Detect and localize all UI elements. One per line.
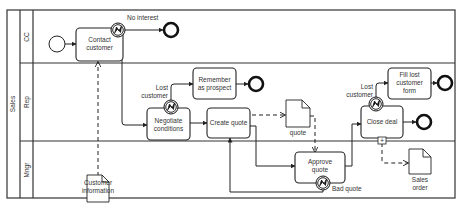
task-label: Negotiate <box>155 117 183 125</box>
label-lost-customer-1a: Lost <box>156 84 168 91</box>
end-event-close-deal[interactable] <box>417 115 431 129</box>
task-label: customer <box>396 79 424 86</box>
lane-label-rep: Rep <box>23 96 31 108</box>
label-customer-information-1: Customer <box>84 179 113 186</box>
task-label: quote <box>312 166 329 174</box>
flow-create-to-approve <box>250 126 295 166</box>
label-no-interest: No interest <box>127 14 159 21</box>
task-label: Fill lost <box>399 71 419 78</box>
task-label: Approve <box>308 158 333 166</box>
boundary-error-event-contact[interactable] <box>111 23 125 37</box>
flow-lost-customer-2 <box>376 83 388 97</box>
plus-icon: + <box>380 137 384 144</box>
start-event[interactable] <box>49 36 65 52</box>
pool-label: Sales <box>9 95 16 112</box>
data-object-sales-order[interactable] <box>409 149 431 174</box>
task-label: as prospect <box>198 84 232 92</box>
task-create-quote[interactable]: Create quote <box>207 108 250 138</box>
label-lost-customer-1b: customer <box>141 92 169 99</box>
lane-label-cc: CC <box>23 32 30 42</box>
data-object-quote[interactable] <box>286 100 310 127</box>
task-label: Contact <box>88 36 111 43</box>
task-remember-as-prospect[interactable]: Remember as prospect <box>193 68 236 99</box>
task-label: Remember <box>198 76 231 83</box>
task-label: form <box>403 87 416 94</box>
task-label: conditions <box>154 125 184 132</box>
label-quote: quote <box>290 129 307 137</box>
flow-lost-customer-1 <box>171 84 193 101</box>
end-event-no-interest[interactable] <box>164 23 178 37</box>
label-sales-order-2: order <box>412 184 428 191</box>
task-label: Create quote <box>210 119 248 127</box>
label-lost-customer-2b: customer <box>346 91 374 98</box>
label-bad-quote: Bad quote <box>332 185 362 193</box>
boundary-error-event-close[interactable] <box>369 97 383 111</box>
end-event-lost-form[interactable] <box>438 76 452 90</box>
task-label: Close deal <box>367 118 398 125</box>
boundary-error-event-negotiate[interactable] <box>164 100 178 114</box>
assoc-close-to-order <box>382 143 408 163</box>
flow-approve-to-close <box>345 124 361 166</box>
task-fill-lost-customer-form[interactable]: Fill lost customer form <box>388 68 431 99</box>
label-customer-information-2: information <box>82 187 115 194</box>
end-event-prospect[interactable] <box>249 77 263 91</box>
task-label: customer <box>86 44 114 51</box>
bpmn-diagram: Sales CC Rep Mngr Contact customer <box>0 0 461 204</box>
boundary-error-event-approve[interactable] <box>316 176 330 190</box>
assoc-quote-to-approve <box>310 116 315 152</box>
label-sales-order-1: Sales <box>412 176 429 183</box>
pool-sales: Sales CC Rep Mngr <box>7 10 455 198</box>
lane-label-mngr: Mngr <box>23 162 31 178</box>
subprocess-close-deal[interactable]: Close deal + <box>361 106 403 144</box>
label-lost-customer-2a: Lost <box>361 83 373 90</box>
